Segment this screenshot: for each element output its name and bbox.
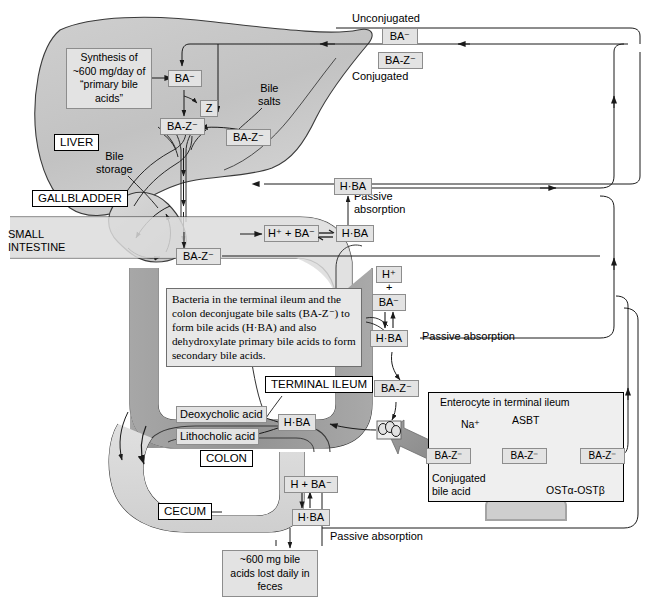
enterocyte-baz-lumen-label: BA-Z⁻ [426,448,471,464]
ileum-plus-sign: + [386,281,392,294]
enterocyte-baz-basolateral-label: BA-Z⁻ [580,448,625,464]
micelle-icon [377,421,401,439]
bacteria-note: Bacteria in the terminal ileum and the c… [166,288,362,367]
synthesis-note: Synthesis of ~600 mg/day of “primary bil… [66,48,152,109]
unconjugated-species-label: BA⁻ [382,28,418,45]
terminal-ileum-organ-label: TERMINAL ILEUM [265,376,373,393]
bile-salts-text: Bile salts [258,82,281,107]
bile-salts-label: Bile salts [258,82,281,108]
gallbladder-organ-label: GALLBLADDER [32,190,128,207]
conjugated-label: Conjugated [352,70,408,83]
diagram-canvas: Unconjugated BA⁻ BA-Z⁻ Conjugated Synthe… [0,0,653,602]
colon-organ-label: COLON [200,450,253,467]
passive-absorption-ileum-label: Passive absorption [422,330,515,343]
fecal-loss-note: ~600 mg bile acids lost daily in feces [222,550,318,597]
cecum-organ-label: CECUM [158,503,212,520]
z-cofactor-label: Z [200,100,218,117]
small-intestine-organ-label: SMALL INTESTINE [8,228,65,254]
liver-organ-label: LIVER [54,134,99,151]
colon-hba-label: H·BA [292,509,330,526]
bile-storage-label: Bile storage [96,150,133,176]
ileum-baz-label: BA-Z⁻ [374,380,419,397]
conjugated-species-label: BA-Z⁻ [378,52,423,69]
lithocholic-acid-label: Lithocholic acid [176,428,259,445]
deoxycholic-acid-label: Deoxycholic acid [176,406,267,423]
si-hba-label: H·BA [336,225,374,242]
equilibrium-icon-si [318,228,336,242]
ost-transporter-label: OSTα-OSTβ [546,484,605,497]
enterocyte-baz-cytosol-label: BA-Z⁻ [502,448,547,464]
ileum-ba-label: BA⁻ [372,294,406,311]
colon-h-ba-label: H + BA⁻ [284,476,338,493]
conjugated-bile-acid-label: Conjugated bile acid [432,472,486,497]
dissociation-label: H⁺ + BA⁻ [264,225,319,242]
si-hba-absorbed-label: H·BA [334,178,372,195]
enterocyte-title: Enterocyte in terminal ileum [440,396,570,409]
ileum-hba-label: H·BA [370,330,408,347]
liver-baz-label: BA-Z⁻ [160,118,205,135]
duct-baz-label: BA-Z⁻ [176,248,221,265]
unconjugated-label: Unconjugated [352,12,420,25]
sodium-label: Na⁺ [461,418,480,431]
liver-ba-label: BA⁻ [168,70,202,87]
passive-absorption-colon-label: Passive absorption [330,530,423,543]
ileum-secondary-hba-label: H·BA [278,414,316,431]
incoming-baz-label: BA-Z⁻ [226,129,271,146]
asbt-label: ASBT [512,414,539,427]
